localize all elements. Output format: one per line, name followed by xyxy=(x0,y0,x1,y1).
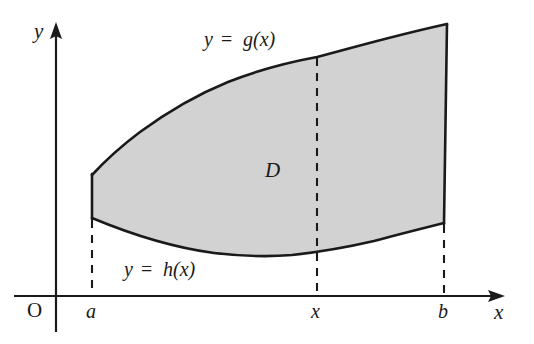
curve-h-label: y = h(x) xyxy=(122,258,196,281)
tick-label-b: b xyxy=(438,300,448,322)
tick-label-x: x xyxy=(310,300,320,322)
y-axis-label: y xyxy=(32,19,44,43)
origin-label: O xyxy=(27,298,42,322)
x-axis-label: x xyxy=(493,300,504,324)
curve-g-label-rhs: g(x) xyxy=(243,28,276,51)
tick-label-a: a xyxy=(86,300,96,322)
curve-g-label-equals: = xyxy=(221,28,232,50)
curve-h-label-rhs: h(x) xyxy=(163,258,196,281)
curve-g-label-lhs: y xyxy=(202,28,213,51)
math-figure: y x O a x b y = g(x) y = h(x) D xyxy=(0,0,534,344)
region-d-fill xyxy=(92,24,447,256)
curve-h-label-equals: = xyxy=(141,258,152,280)
curve-h-label-lhs: y xyxy=(122,258,133,281)
figure-canvas: y x O a x b y = g(x) y = h(x) D xyxy=(0,0,534,344)
curve-g-label: y = g(x) xyxy=(202,28,276,51)
region-label-d: D xyxy=(264,158,280,182)
